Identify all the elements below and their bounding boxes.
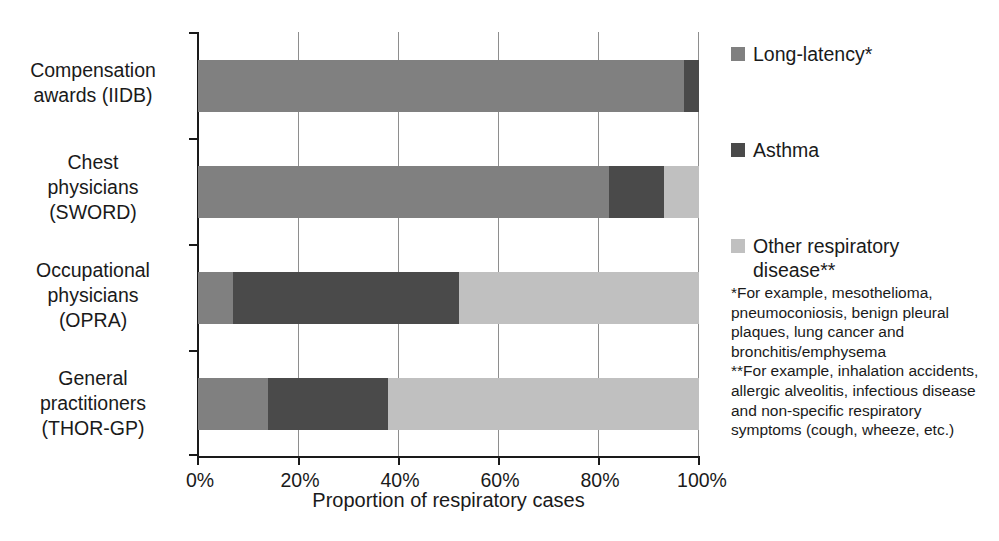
footnotes: *For example, mesothelioma, pneumoconios… xyxy=(731,283,981,440)
stacked-bar-chart: Compensation awards (IIDB) Chest physici… xyxy=(0,0,999,541)
plot-area: 0% 20% 40% 60% 80% 100% xyxy=(198,32,699,456)
bar-segment xyxy=(198,60,684,112)
legend-item-long-latency[interactable]: Long-latency* xyxy=(731,42,872,66)
category-axis-labels: Compensation awards (IIDB) Chest physici… xyxy=(0,30,186,450)
y-tick-3 xyxy=(189,350,198,352)
category-label-thorgp: General practitioners (THOR-GP) xyxy=(0,366,186,441)
x-tick-60 xyxy=(498,456,500,465)
x-tick-100 xyxy=(698,456,700,465)
legend-label-asthma: Asthma xyxy=(753,138,819,162)
legend-label-other: Other respiratory disease** xyxy=(753,234,899,282)
legend-item-other-respiratory-disease[interactable]: Other respiratory disease** xyxy=(731,234,899,282)
bar-segment xyxy=(684,60,699,112)
x-tick-label-100: 100% xyxy=(677,469,727,491)
legend-swatch-asthma xyxy=(731,143,745,157)
bar-segment xyxy=(233,272,458,324)
category-label-sword: Chest physicians (SWORD) xyxy=(0,150,186,225)
bar-segment xyxy=(664,166,699,218)
x-tick-label-60: 60% xyxy=(480,469,519,491)
bar-segment xyxy=(198,378,268,430)
category-label-opra: Occupational physicians (OPRA) xyxy=(0,258,186,333)
x-axis-title: Proportion of respiratory cases xyxy=(198,489,699,512)
y-tick-2 xyxy=(189,244,198,246)
x-tick-label-0: 0% xyxy=(186,469,214,491)
x-tick-0 xyxy=(197,456,199,465)
bar-segment xyxy=(609,166,664,218)
bar-segment xyxy=(388,378,699,430)
bar-segment xyxy=(459,272,699,324)
x-tick-label-20: 20% xyxy=(280,469,319,491)
category-label-iidb: Compensation awards (IIDB) xyxy=(0,58,186,108)
y-tick-1 xyxy=(189,138,198,140)
x-tick-label-80: 80% xyxy=(580,469,619,491)
legend-swatch-other xyxy=(731,239,745,253)
bar-segment xyxy=(198,166,609,218)
x-axis-line xyxy=(197,456,700,458)
x-tick-80 xyxy=(598,456,600,465)
bar-segment xyxy=(268,378,388,430)
y-tick-0 xyxy=(189,32,198,34)
legend-swatch-long-latency xyxy=(731,47,745,61)
x-tick-20 xyxy=(298,456,300,465)
x-tick-label-40: 40% xyxy=(380,469,419,491)
legend-label-long-latency: Long-latency* xyxy=(753,42,872,66)
x-tick-40 xyxy=(398,456,400,465)
legend-item-asthma[interactable]: Asthma xyxy=(731,138,819,162)
bar-segment xyxy=(198,272,233,324)
